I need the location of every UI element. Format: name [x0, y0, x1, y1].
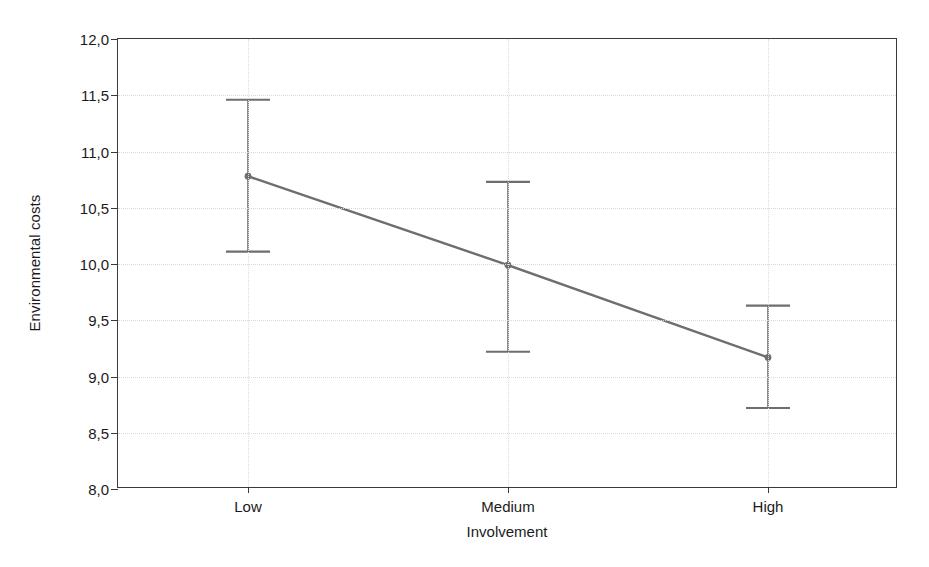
x-axis-tick-label-low: Low	[234, 498, 262, 515]
y-axis-tick-label: 8,5	[88, 424, 109, 441]
y-axis-tick	[111, 320, 118, 321]
x-gridline	[508, 39, 509, 487]
y-axis-tick	[111, 377, 118, 378]
x-axis-tick	[248, 487, 249, 493]
x-axis-tick-label-high: High	[753, 498, 784, 515]
y-axis-tick	[111, 264, 118, 265]
y-axis-tick	[111, 489, 118, 490]
y-gridline	[118, 320, 896, 321]
y-axis-tick-label: 11,5	[81, 87, 109, 104]
y-axis-tick-label: 9,0	[88, 368, 109, 385]
x-axis-tick	[508, 487, 509, 493]
x-gridline	[768, 39, 769, 487]
chart-figure: Environmental costs 12,011,511,010,510,0…	[0, 0, 929, 567]
y-axis-tick	[111, 152, 118, 153]
y-axis-tick	[111, 433, 118, 434]
y-axis-tick-label: 10,0	[80, 256, 109, 273]
y-gridline	[118, 433, 896, 434]
x-axis-tick	[768, 487, 769, 493]
y-axis-tick-label: 9,5	[88, 312, 109, 329]
y-gridline	[118, 208, 896, 209]
plot-area: 12,011,511,010,510,09,59,08,58,0LowMediu…	[117, 38, 897, 488]
y-axis-tick	[111, 39, 118, 40]
y-axis-tick	[111, 95, 118, 96]
y-gridline	[118, 152, 896, 153]
x-gridline	[248, 39, 249, 487]
y-gridline	[118, 95, 896, 96]
x-axis-title: Involvement	[117, 523, 897, 540]
y-axis-tick-label: 8,0	[88, 481, 109, 498]
y-axis-title: Environmental costs	[14, 18, 54, 508]
y-axis-tick-label: 10,5	[80, 199, 109, 216]
y-axis-tick	[111, 208, 118, 209]
y-gridline	[118, 264, 896, 265]
y-axis-tick-label: 11,0	[81, 143, 109, 160]
y-gridline	[118, 377, 896, 378]
y-axis-tick-label: 12,0	[80, 31, 109, 48]
x-axis-tick-label-medium: Medium	[481, 498, 534, 515]
